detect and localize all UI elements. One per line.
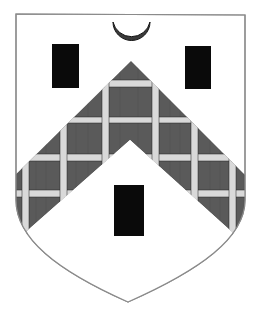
billet-dexter-chief xyxy=(52,44,79,88)
coat-of-arms xyxy=(0,0,262,312)
billet-base xyxy=(114,185,144,236)
fret-v-6 xyxy=(229,154,236,254)
fret-h-2 xyxy=(60,117,204,123)
fret-v-5 xyxy=(22,154,29,254)
billet-sinister-chief xyxy=(185,46,211,89)
